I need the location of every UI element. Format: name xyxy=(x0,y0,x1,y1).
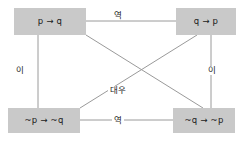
node-contrapositive-label: ~q → ~p xyxy=(185,116,224,125)
node-inverse: ~p → ~q xyxy=(8,108,80,133)
edge-label-bottom-converse: 역 xyxy=(112,116,124,125)
edge-label-center-contrapositive: 대우 xyxy=(108,86,128,95)
node-conditional-label: p → q xyxy=(38,17,62,26)
node-converse-label: q → p xyxy=(194,17,218,26)
logic-relationship-diagram: p → q q → p ~p → ~q ~q → ~p 역 역 이 이 대우 xyxy=(0,0,243,141)
node-contrapositive: ~q → ~p xyxy=(173,108,235,133)
node-inverse-label: ~p → ~q xyxy=(25,116,64,125)
node-conditional: p → q xyxy=(14,8,86,35)
node-converse: q → p xyxy=(176,8,236,35)
edge-label-top-converse: 역 xyxy=(112,11,124,20)
edge-diagonal-contrapositive-1 xyxy=(86,35,203,108)
edge-diagonal-contrapositive-2 xyxy=(80,35,197,108)
edge-label-right-inverse: 이 xyxy=(206,66,218,75)
edge-label-left-inverse: 이 xyxy=(14,66,26,75)
